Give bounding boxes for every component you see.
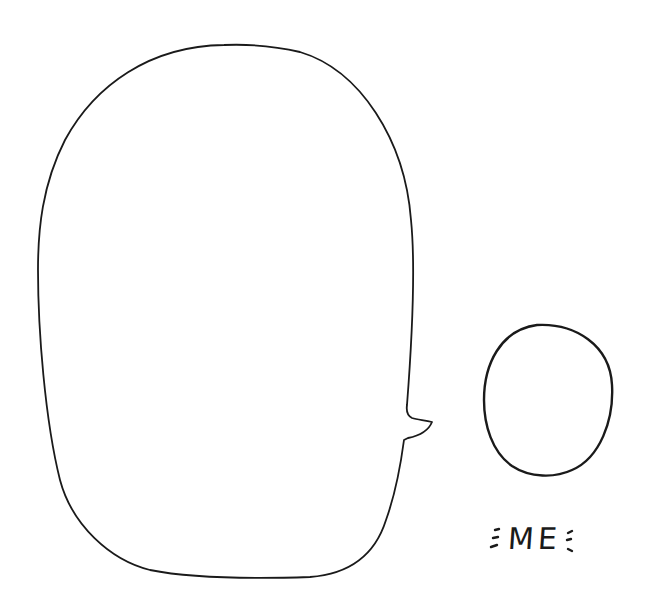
emphasis-marks-left bbox=[491, 529, 499, 547]
emphasis-marks-right bbox=[567, 531, 572, 551]
illustration bbox=[0, 0, 653, 607]
drawing-canvas: ME bbox=[0, 0, 653, 607]
me-label: ME bbox=[507, 521, 562, 556]
speech-bubble bbox=[38, 45, 432, 578]
character-circle bbox=[484, 325, 612, 476]
